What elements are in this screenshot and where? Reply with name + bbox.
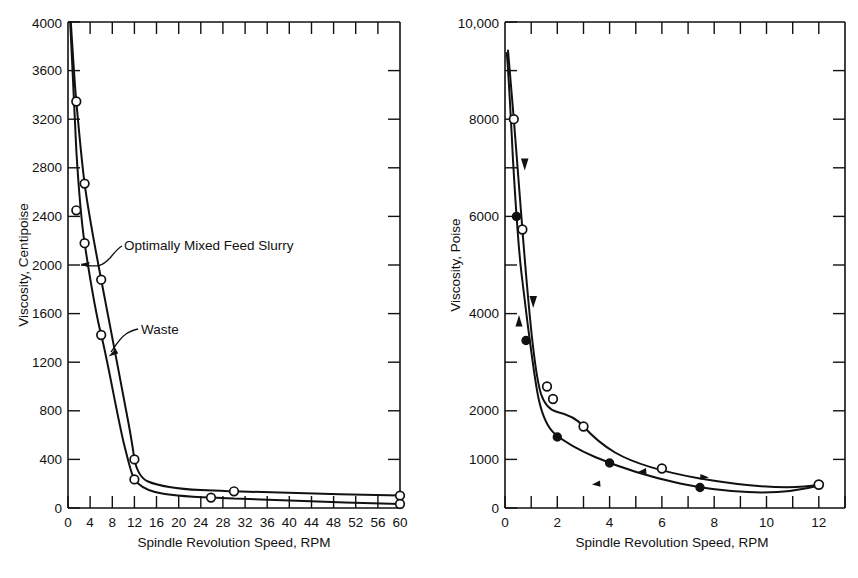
left-x-ticks-top bbox=[90, 22, 378, 34]
data-point bbox=[696, 484, 704, 492]
left-y-ticklabel-2400: 2400 bbox=[32, 209, 62, 224]
right-y-ticklabel-6000: 6000 bbox=[469, 209, 499, 224]
right-y-ticklabel-4000: 4000 bbox=[469, 306, 499, 321]
left-annotation-label-waste: Waste bbox=[141, 322, 179, 337]
right-x-ticklabels: 0 2 4 6 8 10 12 bbox=[501, 515, 826, 530]
data-point bbox=[230, 487, 239, 496]
left-y-ticklabel-400: 400 bbox=[39, 452, 62, 467]
right-x-ticklabel-0: 0 bbox=[501, 515, 509, 530]
right-y-ticklabel-1000: 1000 bbox=[469, 452, 499, 467]
left-y-ticklabel-2000: 2000 bbox=[32, 258, 62, 273]
right-y-ticklabel-2000: 2000 bbox=[469, 403, 499, 418]
right-y-axis-label: Viscosity, Poise bbox=[448, 218, 463, 311]
data-point bbox=[549, 395, 558, 404]
data-point bbox=[579, 422, 588, 431]
left-y-ticklabels: 0 400 800 1200 1600 2000 2400 2800 3200 … bbox=[32, 16, 62, 516]
left-y-ticklabel-1200: 1200 bbox=[32, 355, 62, 370]
right-x-ticklabel-10: 10 bbox=[759, 515, 774, 530]
left-x-ticklabel-32: 32 bbox=[238, 515, 253, 530]
data-point bbox=[72, 97, 81, 106]
left-x-ticklabel-40: 40 bbox=[282, 515, 297, 530]
data-point bbox=[97, 275, 106, 284]
left-x-ticklabel-24: 24 bbox=[193, 515, 209, 530]
left-y-ticklabel-3600: 3600 bbox=[32, 63, 62, 78]
right-y-ticklabel-0: 0 bbox=[491, 501, 499, 516]
right-direction-arrows bbox=[516, 159, 710, 487]
left-annotation-label-feed-slurry: Optimally Mixed Feed Slurry bbox=[124, 238, 294, 253]
left-y-ticklabel-4000: 4000 bbox=[32, 16, 62, 31]
data-point bbox=[80, 239, 89, 248]
right-y-ticks-right bbox=[833, 71, 845, 460]
down-arrow-icon bbox=[521, 159, 529, 171]
data-point bbox=[814, 480, 823, 489]
data-point bbox=[513, 212, 521, 220]
left-axes bbox=[68, 22, 400, 508]
left-y-ticklabel-3200: 3200 bbox=[32, 112, 62, 127]
left-y-ticklabel-2800: 2800 bbox=[32, 160, 62, 175]
left-x-ticklabel-16: 16 bbox=[149, 515, 164, 530]
data-point bbox=[130, 455, 139, 464]
left-y-ticklabel-0: 0 bbox=[54, 501, 62, 516]
left-x-ticklabel-60: 60 bbox=[392, 515, 407, 530]
data-point bbox=[553, 433, 561, 441]
right-curve-down bbox=[508, 51, 819, 488]
left-y-axis-label: Viscosity, Centipoise bbox=[16, 203, 31, 326]
left-x-ticklabels: 0 4 8 12 16 20 24 28 32 36 40 44 48 52 5… bbox=[64, 515, 407, 530]
right-x-ticks-top bbox=[531, 22, 819, 34]
data-point bbox=[396, 500, 405, 509]
left-y-ticklabel-1600: 1600 bbox=[32, 306, 62, 321]
data-point bbox=[396, 491, 405, 500]
left-x-ticklabel-20: 20 bbox=[171, 515, 186, 530]
left-markers-optimally-mixed-feed-slurry bbox=[72, 97, 404, 500]
data-point bbox=[658, 464, 667, 473]
data-point bbox=[510, 115, 519, 124]
down-arrow-icon bbox=[530, 296, 538, 308]
right-y-ticklabel-10000: 10,000 bbox=[458, 16, 499, 31]
data-point bbox=[72, 206, 81, 215]
left-annotation-optimally-mixed-feed-slurry: Optimally Mixed Feed Slurry bbox=[81, 238, 294, 267]
left-y-ticks-right bbox=[388, 71, 400, 460]
left-arrow-icon bbox=[592, 481, 601, 487]
left-x-ticklabel-36: 36 bbox=[260, 515, 275, 530]
data-point bbox=[543, 382, 552, 391]
right-x-ticklabel-2: 2 bbox=[554, 515, 562, 530]
right-x-ticklabel-4: 4 bbox=[606, 515, 614, 530]
right-x-ticks bbox=[505, 496, 845, 508]
right-y-ticklabels: 0 1000 2000 4000 6000 8000 10,000 bbox=[458, 16, 499, 516]
left-x-ticklabel-28: 28 bbox=[215, 515, 230, 530]
right-curve-up bbox=[507, 53, 819, 492]
data-point bbox=[518, 225, 527, 234]
right-x-ticklabel-12: 12 bbox=[811, 515, 826, 530]
up-arrow-icon bbox=[516, 315, 523, 327]
right-x-ticklabel-6: 6 bbox=[658, 515, 666, 530]
data-point bbox=[97, 331, 106, 340]
right-panel: 0 1000 2000 4000 6000 8000 10,000 bbox=[448, 16, 845, 551]
right-x-axis-label: Spindle Revolution Speed, RPM bbox=[576, 535, 769, 550]
left-curve-waste bbox=[70, 22, 400, 504]
left-x-ticklabel-48: 48 bbox=[326, 515, 341, 530]
data-point bbox=[80, 179, 89, 188]
right-y-ticklabel-8000: 8000 bbox=[469, 112, 499, 127]
left-x-ticklabel-12: 12 bbox=[127, 515, 142, 530]
data-point bbox=[522, 337, 530, 345]
figure-container: 0 400 800 1200 1600 2000 2400 2800 3200 … bbox=[0, 0, 858, 578]
left-x-ticklabel-44: 44 bbox=[304, 515, 320, 530]
right-markers-up bbox=[513, 212, 705, 491]
right-x-ticklabel-8: 8 bbox=[710, 515, 718, 530]
left-x-ticklabel-52: 52 bbox=[348, 515, 363, 530]
left-y-ticklabel-800: 800 bbox=[39, 403, 62, 418]
left-annotation-waste: Waste bbox=[109, 322, 179, 357]
left-x-ticklabel-4: 4 bbox=[86, 515, 94, 530]
left-x-ticklabel-0: 0 bbox=[64, 515, 72, 530]
left-x-axis-label: Spindle Revolution Speed, RPM bbox=[138, 535, 331, 550]
left-panel: 0 400 800 1200 1600 2000 2400 2800 3200 … bbox=[16, 16, 408, 551]
left-x-ticklabel-56: 56 bbox=[370, 515, 385, 530]
data-point bbox=[130, 475, 139, 484]
left-x-ticklabel-8: 8 bbox=[109, 515, 117, 530]
data-point bbox=[606, 459, 614, 467]
data-point bbox=[207, 493, 216, 502]
dual-panel-viscosity-chart: 0 400 800 1200 1600 2000 2400 2800 3200 … bbox=[0, 0, 858, 578]
